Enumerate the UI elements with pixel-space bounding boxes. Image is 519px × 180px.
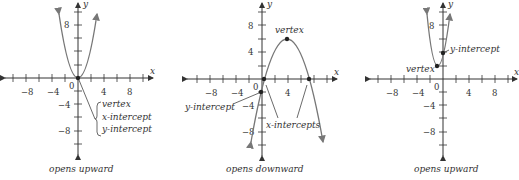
graph-3: x y 0 −8 −4 4 8 8 −4 −8 y-intercept vert… [370,0,519,174]
x-tick-label: 8 [127,87,132,97]
x-tick-label: 4 [101,87,106,97]
caption: opens downward [226,164,304,174]
y-tick-label: −8 [58,126,71,136]
x-tick-label: 4 [466,88,471,98]
origin-label: 0 [434,82,439,92]
label-y-intercept: y-intercept [184,102,235,112]
origin-label: 0 [69,81,74,91]
x-tick-label: −4 [47,87,60,97]
x-tick-label: −8 [386,88,399,98]
x-axis-label: x [514,67,519,77]
graph-2: x y 0 −8 −4 4 8 4 −4 −8 vertex y-interce… [184,0,339,174]
label-vertex: vertex [275,25,304,35]
y-axis-label: y [266,0,273,9]
label-x-intercept: x-intercept [102,112,152,122]
label-vertex: vertex [406,64,435,74]
y-tick-label: −4 [58,100,71,110]
y-tick-label: −4 [242,101,255,111]
x-intercept-point [307,77,311,81]
y-tick-label: 8 [248,21,253,31]
caption: opens upward [49,164,114,174]
x-tick-label: −4 [412,88,425,98]
x-axis-label: x [334,67,339,77]
y-tick-label: −8 [423,127,436,137]
y-tick-label: 8 [64,20,69,30]
x-tick-label: −4 [231,88,244,98]
x-axis-label: x [150,66,155,76]
y-axis-label: y [82,0,89,9]
graph-1: x y 0 −8 −4 4 8 8 −4 −8 vertex x-interce… [5,0,155,174]
label-x-intercepts: x-intercepts [266,120,321,130]
y-intercept-point [441,51,445,55]
label-vertex: vertex [102,99,131,109]
label-y-intercept: y-intercept [449,44,500,54]
vertex-point [285,37,289,41]
brace [95,102,101,136]
parabola-figure: x y 0 −8 −4 4 8 8 −4 −8 vertex x-interce… [0,0,519,180]
caption: opens upward [414,164,479,174]
x-tick-label: 4 [285,88,290,98]
label-y-intercept: y-intercept [101,124,152,134]
y-axis-label: y [447,0,454,9]
x-tick-label: −8 [21,87,34,97]
y-tick-label: 8 [429,21,434,31]
origin-label: 0 [253,82,258,92]
y-intercept-point [259,90,263,94]
x-tick-label: −8 [205,88,218,98]
x-intercept-point [262,77,266,81]
y-tick-label: −4 [423,101,436,111]
vertex-point [76,76,80,80]
y-tick-label: 4 [248,47,253,57]
x-tick-label: 8 [492,88,497,98]
vertex-point [435,64,439,68]
